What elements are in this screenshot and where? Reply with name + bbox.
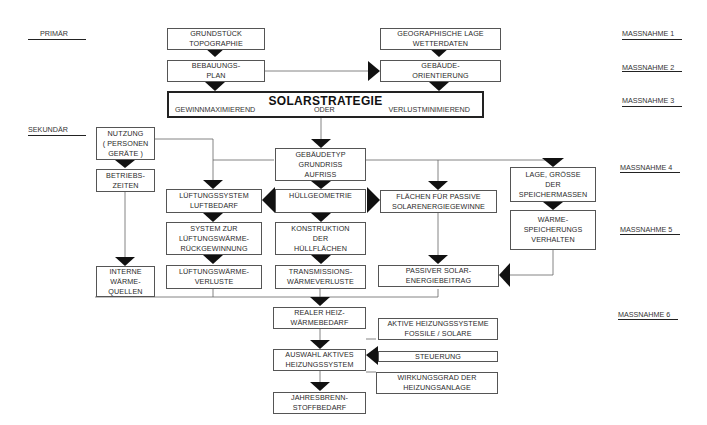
box-line: SYSTEM ZUR [190, 224, 237, 234]
box-line: AKTIVE HEIZUNGSSYSTEME [387, 319, 488, 329]
box-line: DER [545, 180, 560, 190]
massnahme-6: MASSNAHME 6 [618, 310, 670, 319]
box-line: FOSSILE / SOLARE [404, 329, 471, 339]
solarstrategie-left: GEWINNMAXIMIEREND [175, 105, 255, 114]
box-line: NUTZUNG [108, 129, 144, 139]
box-line: GEOGRAPHISCHE LAGE [397, 29, 483, 39]
box-interne-waermequellen: INTERNE WÄRME- QUELLEN [96, 266, 155, 297]
box-flaechen: FLÄCHEN FÜR PASSIVE SOLARENERGIEGEWINNE [380, 190, 497, 213]
box-line: HÜLLGEOMETRIE [289, 191, 352, 201]
box-line: AUSWAHL AKTIVES [285, 350, 353, 360]
box-line: GEBÄUDE- [421, 61, 459, 71]
box-line: GEBÄUDETYP [295, 150, 345, 160]
box-line: WÄRME- [110, 277, 141, 287]
massnahme-1: MASSNAHME 1 [622, 29, 674, 38]
box-nutzung: NUTZUNG ( PERSONEN GERÄTE ) [96, 127, 155, 160]
box-line: FLÄCHEN FÜR PASSIVE [396, 192, 480, 202]
box-line: AUFRISS [305, 170, 337, 180]
box-auswahl-heizungssystem: AUSWAHL AKTIVES HEIZUNGSSYSTEM [273, 349, 366, 371]
box-line: ORIENTIERUNG [412, 71, 468, 81]
solarstrategie-box: SOLARSTRATEGIE GEWINNMAXIMIEREND ODER VE… [167, 91, 484, 118]
level-sekundar: SEKUNDÄR [28, 125, 68, 134]
box-line: ENERGIEBEITRAG [406, 276, 471, 286]
box-gebaeudetyp: GEBÄUDETYP GRUNDRISS AUFRISS [275, 148, 366, 181]
box-line: SPEICHERMASSEN [519, 190, 588, 200]
box-line: TRANSMISSIONS- [289, 267, 352, 277]
box-line: DER [313, 234, 328, 244]
box-lueftungssystem: LÜFTUNGSSYSTEM LUFTBEDARF [166, 189, 262, 213]
box-lueftungsverluste: LÜFTUNGSWÄRME- VERLUSTE [166, 265, 262, 289]
box-line: GRUNDRISS [298, 160, 342, 170]
box-line: LÜFTUNGSWÄRME- [179, 267, 249, 277]
level-primar: PRIMÄR [40, 29, 68, 38]
box-line: ZEITEN [112, 181, 138, 191]
box-line: BEBAUUNGS- [192, 61, 241, 71]
box-wirkungsgrad: WIRKUNGSGRAD DER HEIZUNGSANLAGE [376, 372, 498, 394]
divider-m4 [620, 172, 680, 173]
box-line: LAGE, GRÖSSE [525, 170, 580, 180]
box-realer-heizwaermebedarf: REALER HEIZ- WÄRMEBEDARF [273, 307, 366, 329]
box-line: WETTERDATEN [413, 39, 468, 49]
box-line: TOPOGRAPHIE [189, 39, 243, 49]
divider-m3 [622, 106, 682, 107]
box-huellgeometrie: HÜLLGEOMETRIE [275, 189, 366, 213]
box-line: RÜCKGEWINNUNG [180, 244, 247, 254]
box-geolage: GEOGRAPHISCHE LAGE WETTERDATEN [380, 28, 501, 50]
box-bebauungsplan: BEBAUUNGS- PLAN [167, 60, 265, 82]
box-grundstueck: GRUNDSTÜCK TOPOGRAPHIE [167, 28, 265, 50]
box-line: QUELLEN [108, 287, 142, 297]
divider-m6 [618, 319, 678, 320]
box-aktive-heizungssysteme: AKTIVE HEIZUNGSSYSTEME FOSSILE / SOLARE [378, 318, 498, 340]
box-line: INTERNE [109, 267, 141, 277]
box-line: HEIZUNGSSYSTEM [285, 360, 353, 370]
box-line: ( PERSONEN [103, 139, 149, 149]
box-speicherverhalten: WÄRME- SPEICHERUNGS VERHALTEN [510, 210, 596, 250]
box-line: WIRKUNGSGRAD DER [397, 373, 476, 383]
divider-m2 [622, 71, 682, 72]
divider-m1 [622, 39, 682, 40]
solarstrategie-right: VERLUSTMINIMIEREND [389, 105, 470, 114]
divider-sekundar [28, 135, 86, 136]
box-jahresbrennstoffbedarf: JAHRESBRENN- STOFFBEDARF [273, 392, 366, 414]
box-line: VERLUSTE [195, 277, 234, 287]
massnahme-4: MASSNAHME 4 [620, 163, 672, 172]
divider-primar [28, 39, 86, 40]
box-orientierung: GEBÄUDE- ORIENTIERUNG [380, 60, 501, 82]
box-line: GRUNDSTÜCK [190, 29, 242, 39]
box-konstruktion: KONSTRUKTION DER HÜLLFLÄCHEN [275, 222, 366, 255]
box-line: STEUERUNG [415, 352, 461, 362]
box-betriebszeiten: BETRIEBS- ZEITEN [96, 169, 155, 192]
massnahme-3: MASSNAHME 3 [622, 96, 674, 105]
box-line: SOLARENERGIEGEWINNE [392, 202, 485, 212]
solarstrategie-middle: ODER [314, 105, 335, 114]
divider-m5 [620, 234, 680, 235]
box-waermerueckgewinnung: SYSTEM ZUR LÜFTUNGSWÄRME- RÜCKGEWINNUNG [166, 222, 262, 255]
box-line: BETRIEBS- [106, 171, 145, 181]
box-line: LÜFTUNGSWÄRME- [179, 234, 249, 244]
box-speichermassen: LAGE, GRÖSSE DER SPEICHERMASSEN [510, 167, 596, 202]
box-steuerung: STEUERUNG [378, 351, 498, 362]
box-line: WÄRMEBEDARF [291, 318, 349, 328]
box-line: GERÄTE ) [108, 149, 143, 159]
box-line: LUFTBEDARF [190, 201, 238, 211]
box-line: HÜLLFLÄCHEN [294, 244, 347, 254]
box-line: SPEICHERUNGS [524, 225, 583, 235]
box-transmission: TRANSMISSIONS- WÄRMEVERLUSTE [275, 265, 366, 289]
box-line: KONSTRUKTION [291, 224, 349, 234]
box-line: PLAN [206, 71, 225, 81]
box-line: REALER HEIZ- [294, 308, 345, 318]
box-line: STOFFBEDARF [293, 403, 347, 413]
massnahme-5: MASSNAHME 5 [620, 225, 672, 234]
box-passiver-solarbeitrag: PASSIVER SOLAR- ENERGIEBEITRAG [378, 265, 499, 287]
box-line: LÜFTUNGSSYSTEM [179, 191, 249, 201]
box-line: WÄRME- [538, 215, 569, 225]
box-line: PASSIVER SOLAR- [406, 266, 472, 276]
box-line: VERHALTEN [531, 235, 575, 245]
box-line: WÄRMEVERLUSTE [287, 277, 354, 287]
box-line: HEIZUNGSANLAGE [403, 383, 471, 393]
box-line: JAHRESBRENN- [291, 393, 348, 403]
